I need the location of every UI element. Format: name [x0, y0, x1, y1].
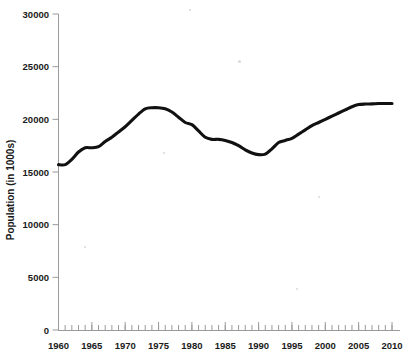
- scan-speck: [296, 288, 298, 290]
- x-tick-label: 1965: [81, 340, 103, 351]
- y-tick-label: 30000: [23, 9, 49, 20]
- x-tick-label: 1990: [248, 340, 269, 351]
- y-tick-label: 20000: [23, 114, 49, 125]
- x-tick-label: 2005: [348, 340, 370, 351]
- line-chart-plot: 050001000015000200002500030000 196019651…: [0, 0, 414, 361]
- scan-speck: [238, 60, 241, 63]
- x-tick-label: 2000: [315, 340, 336, 351]
- y-tick-label: 10000: [23, 219, 49, 230]
- x-axis-tick-labels: 1960196519701975198019851990199520002005…: [48, 340, 403, 351]
- y-tick-label: 15000: [23, 167, 49, 178]
- x-tick-label: 1960: [48, 340, 69, 351]
- chart-container: 050001000015000200002500030000 196019651…: [0, 0, 414, 361]
- y-tick-label: 25000: [23, 61, 49, 72]
- x-tick-label: 2010: [381, 340, 402, 351]
- x-tick-label: 1995: [281, 340, 303, 351]
- population-line-series: [59, 104, 393, 165]
- scan-speck: [189, 9, 191, 11]
- scan-speck: [163, 152, 165, 154]
- y-axis-ticks: [53, 14, 59, 330]
- scan-speck: [318, 196, 320, 198]
- y-axis-title: Population (in 1000s): [5, 140, 16, 241]
- x-tick-label: 1970: [115, 340, 136, 351]
- x-tick-label: 1975: [148, 340, 170, 351]
- x-tick-label: 1980: [181, 340, 202, 351]
- y-tick-label: 0: [44, 325, 49, 336]
- y-axis-tick-labels: 050001000015000200002500030000: [23, 9, 49, 336]
- y-tick-label: 5000: [28, 272, 49, 283]
- x-axis-major-ticks: [59, 322, 393, 331]
- scan-speck: [84, 246, 86, 248]
- x-tick-label: 1985: [215, 340, 237, 351]
